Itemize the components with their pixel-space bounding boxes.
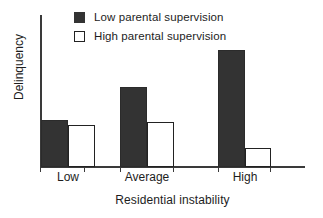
bar-high-parental-supervision-low[interactable] bbox=[68, 125, 95, 167]
bar-high-parental-supervision-high[interactable] bbox=[245, 148, 271, 167]
legend-item-high-parental-supervision[interactable]: High parental supervision bbox=[74, 27, 226, 46]
x-axis-title: Residential instability bbox=[40, 193, 305, 207]
bar-low-parental-supervision-average[interactable] bbox=[120, 87, 147, 167]
chart-legend: Low parental supervision High parental s… bbox=[74, 8, 226, 46]
y-axis-title: Delinquency bbox=[12, 22, 26, 112]
bar-low-parental-supervision-high[interactable] bbox=[218, 50, 245, 167]
legend-swatch-open-square-icon bbox=[74, 31, 85, 42]
legend-label: Low parental supervision bbox=[94, 12, 224, 23]
x-axis-category-label-high: High bbox=[215, 170, 275, 184]
x-axis-category-label-low: Low bbox=[38, 170, 98, 184]
legend-label: High parental supervision bbox=[94, 31, 226, 42]
x-axis-category-label-average: Average bbox=[117, 170, 177, 184]
bar-low-parental-supervision-low[interactable] bbox=[41, 120, 68, 167]
bar-chart: Low parental supervision High parental s… bbox=[0, 0, 323, 218]
legend-swatch-filled-square-icon bbox=[74, 12, 85, 23]
legend-item-low-parental-supervision[interactable]: Low parental supervision bbox=[74, 8, 226, 27]
bar-high-parental-supervision-average[interactable] bbox=[147, 122, 174, 167]
